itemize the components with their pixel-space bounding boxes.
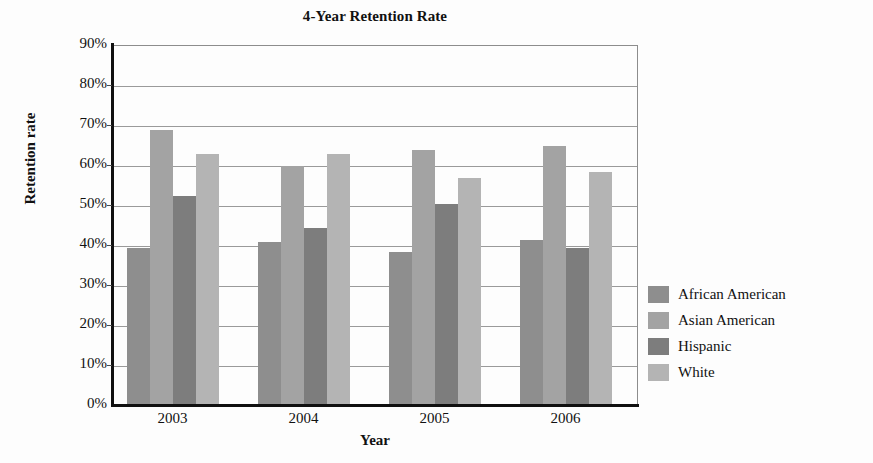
y-axis-tick-label: 40%: [53, 236, 107, 251]
bar: [458, 178, 481, 406]
y-axis-tick-mark: [107, 245, 112, 246]
y-axis-tick-label: 0%: [53, 396, 107, 411]
x-axis-tick-label: 2005: [375, 410, 495, 427]
bar-group-2003: [127, 46, 219, 406]
bar: [327, 154, 350, 406]
bar: [566, 248, 589, 406]
legend-item: Asian American: [648, 307, 863, 333]
retention-rate-bar-chart: 4-Year Retention Rate Retention rate 0%1…: [0, 0, 873, 463]
legend-label: Hispanic: [678, 338, 731, 355]
plot-area: [113, 45, 638, 406]
y-axis-tick-label: 20%: [53, 316, 107, 331]
y-axis-tick-mark: [107, 205, 112, 206]
x-axis-tick-label: 2003: [113, 410, 233, 427]
y-axis-tick-label: 80%: [53, 76, 107, 91]
bar: [196, 154, 219, 406]
x-axis-tick-label: 2004: [244, 410, 364, 427]
legend: African AmericanAsian AmericanHispanicWh…: [648, 281, 863, 385]
y-axis-title: Retention rate: [22, 69, 39, 249]
legend-swatch-icon: [648, 364, 669, 381]
legend-swatch-icon: [648, 312, 669, 329]
bar: [435, 204, 458, 406]
bar-group-2006: [520, 46, 612, 406]
y-axis-tick-mark: [107, 165, 112, 166]
bar: [281, 166, 304, 406]
legend-label: Asian American: [678, 312, 775, 329]
y-axis-tick-label: 60%: [53, 156, 107, 171]
y-axis-tick-mark: [107, 85, 112, 86]
y-axis-tick-mark: [107, 365, 112, 366]
bar: [150, 130, 173, 406]
bar: [304, 228, 327, 406]
legend-item: African American: [648, 281, 863, 307]
bar-group-2005: [389, 46, 481, 406]
y-axis-tick-labels: 0%10%20%30%40%50%60%70%80%90%: [47, 45, 107, 405]
bar: [173, 196, 196, 406]
legend-swatch-icon: [648, 338, 669, 355]
y-axis-tick-label: 90%: [53, 36, 107, 51]
x-axis-line: [111, 404, 639, 407]
legend-item: Hispanic: [648, 333, 863, 359]
y-axis-tick-label: 50%: [53, 196, 107, 211]
y-axis-tick-mark: [107, 285, 112, 286]
bar-group-2004: [258, 46, 350, 406]
bar: [589, 172, 612, 406]
bar: [258, 242, 281, 406]
y-axis-tick-mark: [107, 325, 112, 326]
legend-swatch-icon: [648, 286, 669, 303]
bar: [412, 150, 435, 406]
y-axis-line: [111, 43, 114, 407]
y-axis-tick-label: 30%: [53, 276, 107, 291]
bar: [127, 248, 150, 406]
bar: [520, 240, 543, 406]
legend-label: African American: [678, 286, 786, 303]
bar: [543, 146, 566, 406]
y-axis-tick-label: 70%: [53, 116, 107, 131]
bar: [389, 252, 412, 406]
y-axis-tick-mark: [107, 125, 112, 126]
x-axis-tick-label: 2006: [506, 410, 626, 427]
page-title: 4-Year Retention Rate: [113, 8, 637, 25]
legend-label: White: [678, 364, 715, 381]
x-axis-title: Year: [113, 432, 637, 449]
y-axis-tick-label: 10%: [53, 356, 107, 371]
legend-item: White: [648, 359, 863, 385]
